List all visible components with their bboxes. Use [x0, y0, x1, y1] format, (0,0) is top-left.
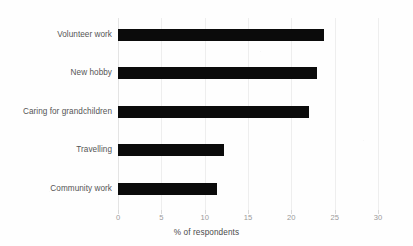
- bar-row: [118, 133, 378, 171]
- category-label: Community work: [0, 184, 112, 193]
- bar-row: [118, 56, 378, 94]
- bar: [118, 67, 317, 79]
- bar-row: [118, 18, 378, 56]
- x-tick-label: 30: [358, 213, 398, 222]
- gridline-30: [378, 18, 379, 210]
- x-tick-label: 15: [228, 213, 268, 222]
- horizontal-bar-chart: Volunteer workNew hobbyCaring for grandc…: [0, 0, 413, 246]
- x-tick-label: 25: [315, 213, 355, 222]
- x-tick-label: 5: [141, 213, 181, 222]
- x-tick-label: 0: [98, 213, 138, 222]
- x-axis-title: % of respondents: [0, 228, 413, 237]
- plot-area: [118, 18, 378, 210]
- bar: [118, 106, 309, 118]
- x-tick-label: 10: [185, 213, 225, 222]
- bar-row: [118, 95, 378, 133]
- category-label: New hobby: [0, 68, 112, 77]
- bar: [118, 144, 224, 156]
- x-tick-label: 20: [271, 213, 311, 222]
- bar: [118, 29, 324, 41]
- bar-row: [118, 172, 378, 210]
- category-label: Caring for grandchildren: [0, 107, 112, 116]
- category-label: Travelling: [0, 145, 112, 154]
- bar: [118, 183, 217, 195]
- category-label: Volunteer work: [0, 30, 112, 39]
